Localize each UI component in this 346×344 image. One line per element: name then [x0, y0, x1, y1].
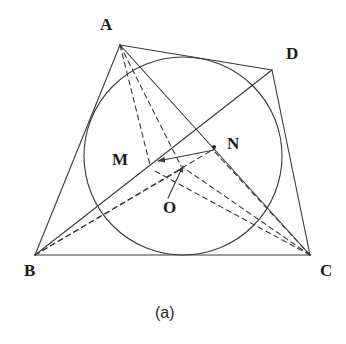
arrow-to-incenter [168, 166, 183, 198]
vertex-label-c: C [320, 262, 332, 279]
dashed-CO [184, 168, 310, 255]
dashed-AM [120, 45, 150, 165]
side-AB [35, 45, 120, 255]
diagonal-BD [35, 70, 272, 255]
point-label-m: M [112, 151, 128, 168]
vertex-label-b: B [24, 262, 35, 279]
figure-caption: (a) [155, 305, 175, 321]
point-label-n: N [227, 135, 239, 152]
side-DA [120, 45, 272, 70]
vertex-label-a: A [100, 16, 112, 33]
vertex-label-d: D [286, 45, 298, 62]
segment-MN [158, 150, 214, 161]
point-N-dot [212, 145, 216, 149]
side-CD [272, 70, 310, 255]
geometry-figure: A D B C M N O (a) [0, 0, 346, 344]
dashed-CN [213, 150, 310, 255]
point-label-o: O [163, 199, 176, 216]
